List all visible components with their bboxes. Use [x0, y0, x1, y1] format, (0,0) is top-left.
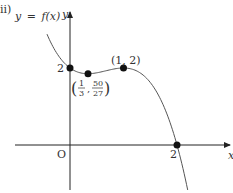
y-axis-label: y	[61, 8, 69, 21]
origin-label: O	[57, 148, 66, 161]
svg-text:27: 27	[93, 89, 103, 98]
x-axis-label: x	[228, 149, 233, 162]
svg-text:(: (	[71, 79, 77, 98]
x-intercept-label: 2	[170, 148, 177, 161]
local-maximum-label: (1, 2)	[111, 54, 141, 67]
svg-text:): )	[104, 79, 110, 98]
local-minimum-label: ( 1 3 , 50 27 )	[71, 79, 110, 98]
y-intercept-label: 2	[57, 62, 64, 75]
curve-label: y = f(x)	[14, 10, 60, 23]
graph-canvas: ii) y = f(x) y x O 2 2 (1, 2) ( 1 3 , 50…	[0, 0, 233, 193]
svg-text:,: ,	[87, 83, 90, 94]
part-label: ii)	[0, 3, 11, 16]
svg-text:50: 50	[93, 79, 103, 88]
point-y-intercept	[67, 65, 74, 72]
point-local-minimum	[85, 70, 92, 77]
svg-text:1: 1	[79, 79, 84, 88]
svg-text:3: 3	[79, 89, 84, 98]
